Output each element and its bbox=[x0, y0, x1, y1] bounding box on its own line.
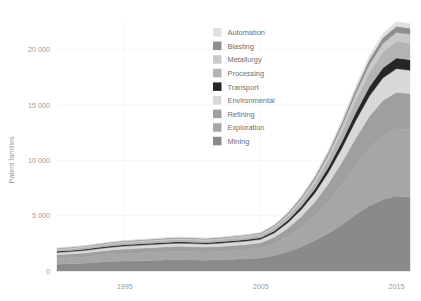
legend-swatch bbox=[213, 123, 222, 132]
legend-label: Metallurgy bbox=[228, 55, 262, 64]
legend-item[interactable]: Transport bbox=[213, 82, 259, 91]
legend-label: Blasting bbox=[228, 42, 254, 51]
legend-item[interactable]: Metallurgy bbox=[213, 55, 262, 64]
legend-swatch bbox=[213, 28, 222, 37]
legend-label: Exploration bbox=[228, 123, 265, 132]
legend-swatch bbox=[213, 55, 222, 64]
y-axis-title: Patent families bbox=[7, 136, 16, 184]
legend-label: Processing bbox=[228, 69, 265, 78]
legend-item[interactable]: Refining bbox=[213, 110, 255, 119]
stacked-area-chart: 05 00010 00015 00020 000 199520052015 Pa… bbox=[0, 0, 421, 301]
legend-label: Mining bbox=[228, 137, 250, 146]
legend-swatch bbox=[213, 110, 222, 119]
legend-item[interactable]: Environmental bbox=[213, 96, 275, 105]
y-tick-label: 0 bbox=[46, 267, 50, 276]
y-tick-label: 5 000 bbox=[32, 211, 50, 220]
legend-item[interactable]: Blasting bbox=[213, 42, 254, 51]
legend-item[interactable]: Automation bbox=[213, 28, 265, 37]
legend-swatch bbox=[213, 96, 222, 105]
legend-swatch bbox=[213, 69, 222, 78]
x-tick-label: 1995 bbox=[117, 282, 133, 291]
y-tick-label: 15 000 bbox=[28, 101, 50, 110]
legend-label: Environmental bbox=[228, 96, 276, 105]
x-axis-ticks-group: 199520052015 bbox=[117, 282, 405, 291]
legend-swatch bbox=[213, 137, 222, 146]
legend-item[interactable]: Mining bbox=[213, 137, 249, 146]
y-tick-label: 10 000 bbox=[28, 156, 50, 165]
legend-item[interactable]: Processing bbox=[213, 69, 264, 78]
legend-swatch bbox=[213, 42, 222, 51]
y-tick-label: 20 000 bbox=[28, 45, 50, 54]
legend-label: Transport bbox=[228, 83, 259, 92]
legend-swatch bbox=[213, 82, 222, 91]
legend-label: Refining bbox=[228, 110, 255, 119]
x-tick-label: 2015 bbox=[388, 282, 404, 291]
y-axis-ticks-group: 05 00010 00015 00020 000 bbox=[28, 45, 50, 275]
x-tick-label: 2005 bbox=[253, 282, 269, 291]
legend-label: Automation bbox=[228, 28, 265, 37]
legend: AutomationBlastingMetallurgyProcessingTr… bbox=[213, 28, 275, 146]
legend-item[interactable]: Exploration bbox=[213, 123, 264, 132]
chart-canvas: 05 00010 00015 00020 000 199520052015 Pa… bbox=[0, 0, 421, 301]
